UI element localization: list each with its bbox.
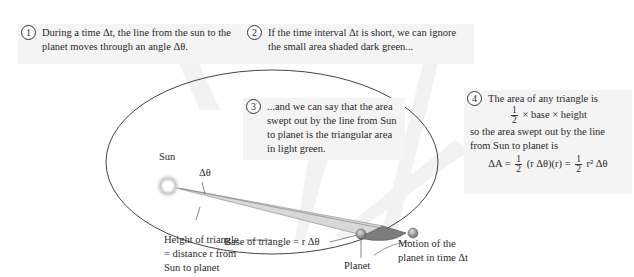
callout-text: During a time Δt, the line from the sun …	[42, 27, 231, 52]
callout-2: 2 If the time interval Δt is short, we c…	[244, 24, 474, 64]
base-label: Base of triangle = r Δθ	[224, 235, 320, 249]
planet-label: Planet	[344, 259, 370, 273]
callout-4: 4 The area of any triangle is 12 × base …	[464, 90, 632, 194]
callout-3: 3 ...and we can say that the area swept …	[243, 98, 405, 160]
swept-area-formula: ΔA = 12 (r Δθ)(r) = 12 r² Δθ	[470, 155, 626, 174]
callout-1: 1 During a time Δt, the line from the su…	[18, 24, 250, 64]
callout-number: 3	[246, 99, 261, 114]
sun-label: Sun	[159, 150, 175, 164]
planet-start-icon	[356, 229, 366, 239]
callout-number: 4	[467, 91, 482, 106]
callout-number: 2	[247, 25, 262, 40]
callout-number: 1	[21, 25, 36, 40]
callout-text: If the time interval Δt is short, we can…	[268, 27, 456, 52]
callout-text: ...and we can say that the area swept ou…	[267, 101, 397, 154]
callout-text: so the area swept out by the line from S…	[470, 125, 626, 153]
delta-theta-label: Δθ	[199, 166, 211, 180]
motion-label: Motion of the planet in time Δt	[398, 237, 468, 265]
sun-icon	[155, 173, 181, 199]
triangle-area-formula: 12 × base × height	[470, 106, 626, 125]
light-triangle-area	[168, 186, 383, 236]
callout-text: The area of any triangle is	[488, 92, 626, 106]
